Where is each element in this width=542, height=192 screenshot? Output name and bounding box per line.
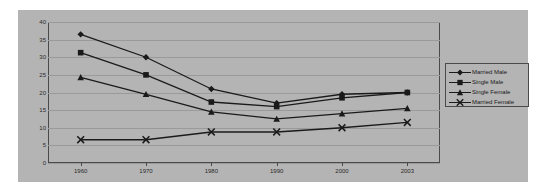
legend-marker-diamond-icon [449, 68, 471, 77]
data-point-marker [405, 90, 411, 96]
legend-marker-triangle-icon [449, 88, 471, 97]
legend-item-label: Married Male [472, 69, 507, 76]
legend-item-label: Married Female [472, 99, 514, 106]
legend-item[interactable]: Married Male [449, 67, 507, 77]
legend-item-label: Single Male [472, 79, 503, 86]
series-line [81, 53, 408, 107]
data-point-marker [208, 86, 214, 92]
chart-figure: 4035302520151050 19601970198019902000200… [0, 0, 542, 192]
legend-marker-glyph [449, 78, 471, 87]
data-series [77, 119, 410, 143]
legend-item[interactable]: Single Male [449, 77, 503, 87]
legend-marker-glyph [449, 88, 471, 97]
chart-legend: Married MaleSingle MaleSingle FemaleMarr… [445, 63, 529, 107]
series-line [81, 122, 408, 139]
data-point-marker [274, 104, 280, 110]
data-series [78, 50, 410, 110]
data-series [77, 74, 410, 122]
legend-item[interactable]: Married Female [449, 97, 514, 107]
legend-marker-glyph [449, 98, 471, 107]
legend-item-label: Single Female [472, 89, 510, 96]
legend-marker-x-icon [449, 98, 471, 107]
data-point-marker [209, 99, 215, 105]
legend-marker-square-icon [449, 78, 471, 87]
series-line [81, 77, 408, 119]
legend-item[interactable]: Single Female [449, 87, 510, 97]
data-point-marker [78, 50, 84, 56]
data-point-marker [339, 95, 345, 101]
data-point-marker [143, 72, 149, 78]
legend-marker-glyph [449, 68, 471, 77]
data-point-marker [143, 54, 149, 60]
data-point-marker [77, 74, 84, 80]
data-point-marker [77, 31, 83, 37]
